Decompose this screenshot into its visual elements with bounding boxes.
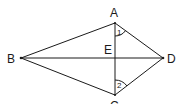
point-c: [114, 94, 116, 96]
angle-1-label: 1: [117, 28, 122, 37]
segment-bc: [21, 58, 115, 95]
point-b: [20, 57, 23, 60]
segment-ab: [21, 23, 115, 58]
label-a: A: [110, 6, 118, 20]
segment-cd: [115, 58, 163, 95]
segment-da: [115, 23, 163, 58]
point-d: [162, 57, 165, 60]
label-b: B: [7, 52, 15, 66]
label-d: D: [167, 52, 176, 66]
label-c: C: [110, 99, 119, 104]
kite-diagram: A B C D E 1 2: [0, 0, 180, 104]
angle-2-label: 2: [117, 81, 122, 90]
label-e: E: [104, 43, 112, 57]
point-a: [114, 22, 116, 24]
